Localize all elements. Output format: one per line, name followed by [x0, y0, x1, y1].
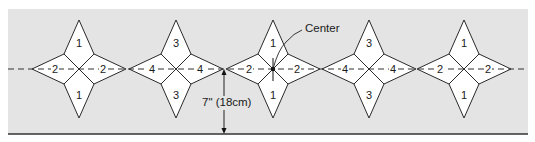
center-label: Center [305, 22, 340, 34]
bottom-piece-number: 3 [173, 89, 179, 101]
bottom-piece-number: 3 [366, 89, 372, 101]
measurement-label: 7" (18cm) [202, 96, 252, 108]
top-piece-number: 1 [270, 37, 276, 49]
right-piece-number: 2 [100, 63, 106, 75]
top-piece-number: 3 [173, 37, 179, 49]
bottom-piece-number: 1 [76, 89, 82, 101]
left-piece-number: 4 [342, 63, 348, 75]
top-piece-number: 1 [461, 37, 467, 49]
right-piece-number: 2 [485, 63, 491, 75]
bottom-piece-number: 1 [270, 89, 276, 101]
top-piece-number: 1 [76, 37, 82, 49]
right-piece-number: 2 [294, 63, 300, 75]
left-piece-number: 4 [149, 63, 155, 75]
left-piece-number: 2 [437, 63, 443, 75]
bottom-piece-number: 1 [461, 89, 467, 101]
quilt-border-diagram: 11223344112233441122 Center 7" (18cm) [0, 0, 535, 142]
right-piece-number: 4 [390, 63, 396, 75]
left-piece-number: 2 [52, 63, 58, 75]
left-piece-number: 2 [246, 63, 252, 75]
right-piece-number: 4 [197, 63, 203, 75]
top-piece-number: 3 [366, 37, 372, 49]
